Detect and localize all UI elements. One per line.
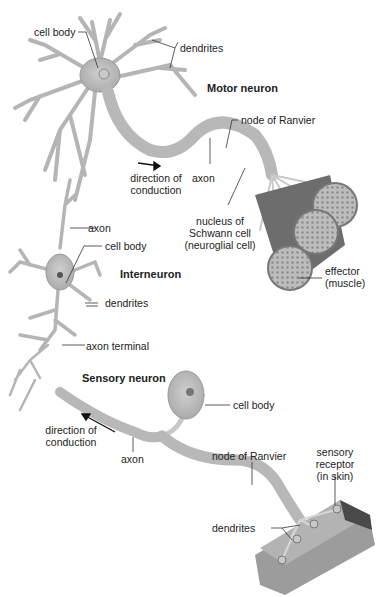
motor-direction-line2: conduction (126, 184, 186, 196)
effector-muscle-label: effector (muscle) (325, 265, 365, 289)
sensory-receptor-line3: (in skin) (310, 470, 360, 482)
motor-direction-line1: direction of (126, 172, 186, 184)
sensory-axon-label: axon (121, 453, 144, 465)
sensory-direction-line1: direction of (36, 424, 106, 436)
sensory-direction-line2: conduction (36, 436, 106, 448)
sensory-node-of-ranvier-label: node of Ranvier (212, 450, 286, 462)
motor-axon-label: axon (192, 172, 215, 184)
interneuron-title: Interneuron (120, 268, 181, 280)
schwann-nucleus-line2: Schwann cell (180, 227, 260, 239)
neuron-illustration (0, 0, 381, 597)
skin-receptor-drawing (255, 500, 375, 595)
motor-cell-body-label: cell body (34, 26, 75, 38)
effector-line1: effector (325, 265, 365, 277)
motor-dendrites-label: dendrites (180, 42, 223, 54)
effector-line2: (muscle) (325, 277, 365, 289)
motor-neuron-title: Motor neuron (207, 82, 278, 94)
interneuron-dendrites-label: dendrites (105, 297, 148, 309)
sensory-cell-body-label: cell body (233, 399, 274, 411)
sensory-receptor-label: sensory receptor (in skin) (310, 446, 360, 482)
sensory-dendrites-label: dendrites (212, 522, 255, 534)
schwann-nucleus-label: nucleus of Schwann cell (neuroglial cell… (180, 215, 260, 251)
motor-node-of-ranvier-label: node of Ranvier (241, 114, 315, 126)
schwann-nucleus-line1: nucleus of (180, 215, 260, 227)
sensory-direction-label: direction of conduction (36, 424, 106, 448)
motor-direction-label: direction of conduction (126, 172, 186, 196)
interneuron-cell-body-label: cell body (105, 240, 146, 252)
schwann-nucleus-line3: (neuroglial cell) (180, 239, 260, 251)
axon-terminal-label: axon terminal (86, 340, 149, 352)
interneuron-axon-label: axon (88, 222, 111, 234)
sensory-neuron-title: Sensory neuron (82, 372, 166, 384)
sensory-receptor-line2: receptor (310, 458, 360, 470)
sensory-receptor-line1: sensory (310, 446, 360, 458)
